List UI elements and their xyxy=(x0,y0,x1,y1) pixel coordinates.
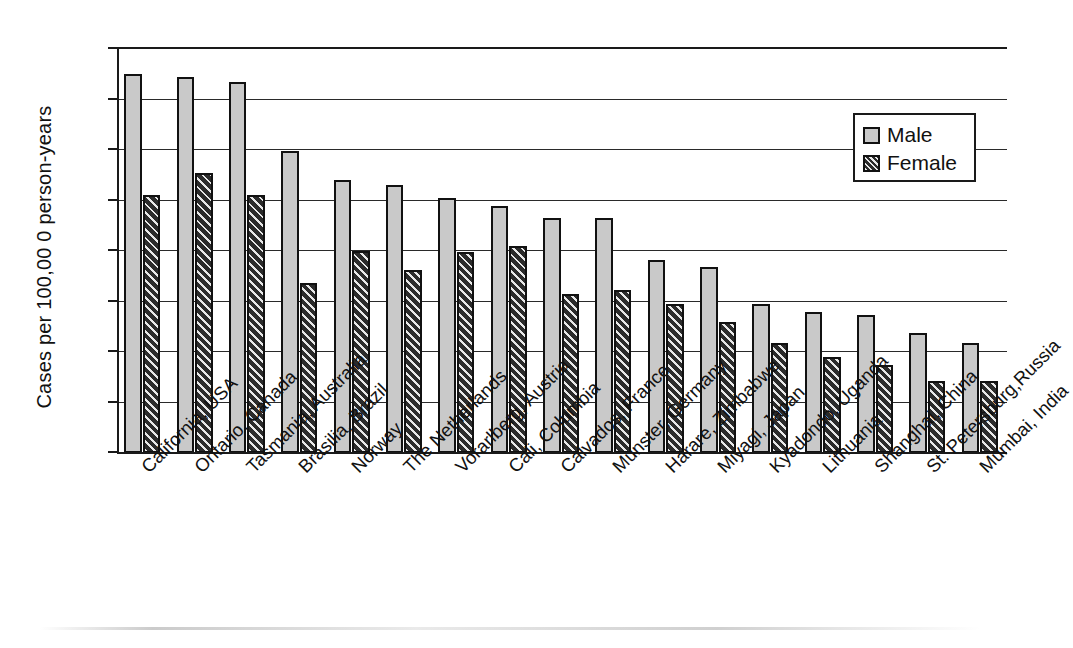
legend-swatch-male-icon xyxy=(863,127,880,144)
bar-female xyxy=(404,270,422,453)
scan-artifact xyxy=(40,627,980,630)
bar-female xyxy=(719,322,737,453)
bar-male xyxy=(124,74,142,453)
y-axis-title: Cases per 100,00 0 person-years xyxy=(33,47,61,467)
y-axis-tick xyxy=(108,148,117,150)
bar-female xyxy=(143,195,161,453)
y-axis-tick xyxy=(108,300,117,302)
legend-item-female: Female xyxy=(863,149,974,177)
legend: Male Female xyxy=(853,113,976,182)
plot-area xyxy=(117,49,1007,453)
bar-male xyxy=(177,77,195,453)
bar-male xyxy=(386,185,404,453)
gridline xyxy=(117,47,1007,49)
y-axis-tick xyxy=(108,249,117,251)
y-axis-tick xyxy=(108,199,117,201)
legend-label-female: Female xyxy=(887,151,957,175)
y-axis-tick xyxy=(108,451,117,453)
legend-item-male: Male xyxy=(863,121,974,149)
y-axis-tick xyxy=(108,47,117,49)
y-axis-tick xyxy=(108,350,117,352)
y-axis-tick xyxy=(108,401,117,403)
legend-swatch-female-icon xyxy=(863,155,880,172)
y-axis-line xyxy=(117,49,119,453)
legend-label-male: Male xyxy=(887,123,933,147)
gridline xyxy=(117,99,1007,100)
y-axis-tick xyxy=(108,98,117,100)
